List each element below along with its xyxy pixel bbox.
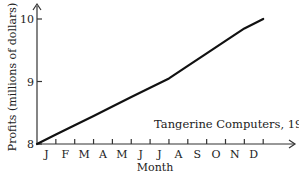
x-tick-label: S — [193, 148, 201, 161]
x-tick-label: A — [98, 148, 108, 161]
x-tick-label: M — [116, 148, 127, 161]
x-tick-label: J — [43, 148, 48, 161]
x-tick-label: N — [230, 148, 240, 161]
y-axis-title: Profits (millions of dollars) — [6, 3, 19, 151]
x-tick-label: J — [156, 148, 161, 161]
y-ticks: 8910 — [20, 13, 42, 151]
x-tick-label: J — [137, 148, 142, 161]
x-tick-label: A — [173, 148, 183, 161]
y-tick-label: 8 — [27, 138, 34, 151]
line-chart: 8910 JFMAMJJASOND Tangerine Computers, 1… — [0, 0, 299, 180]
x-axis-title: Month — [137, 161, 173, 174]
x-tick-label: M — [78, 148, 89, 161]
y-tick-label: 9 — [27, 76, 34, 89]
x-tick-label: F — [61, 148, 69, 161]
chart-annotation: Tangerine Computers, 1982 — [154, 117, 299, 131]
x-tick-label: D — [249, 148, 258, 161]
x-tick-label: O — [212, 148, 221, 161]
y-tick-label: 10 — [20, 13, 34, 26]
x-ticks: JFMAMJJASOND — [43, 139, 263, 161]
